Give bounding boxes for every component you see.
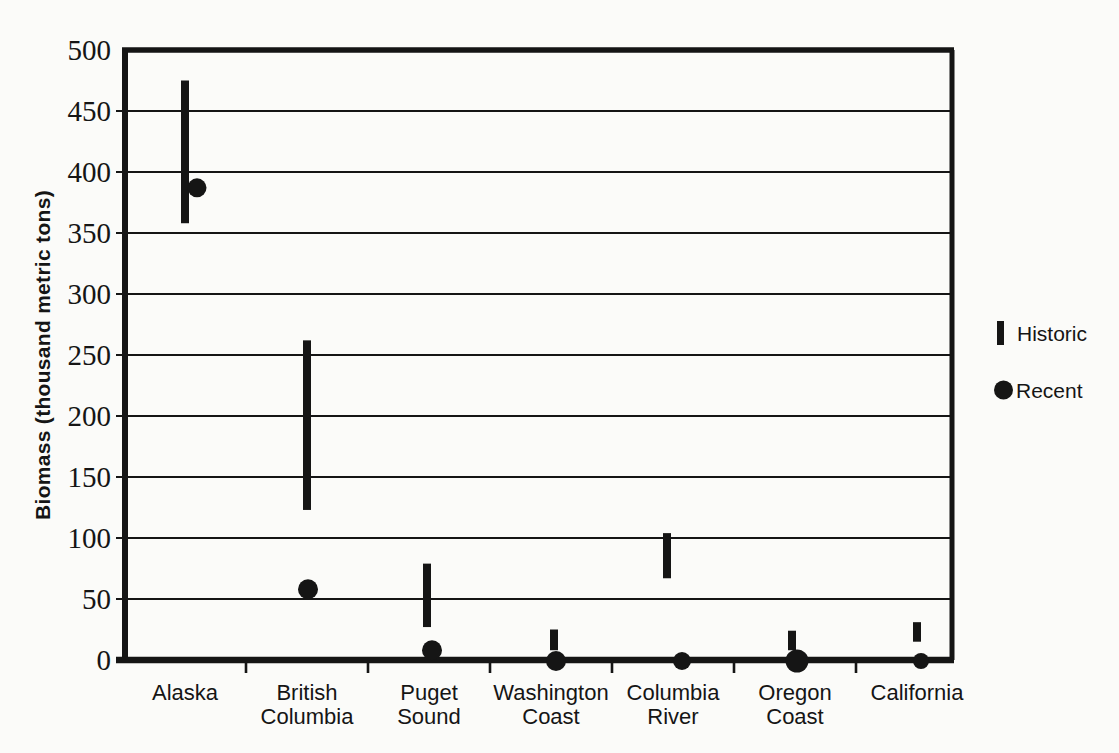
historic-range-bar — [913, 622, 921, 642]
y-tick-label: 250 — [68, 339, 112, 371]
biomass-range-chart: 050100150200250300350400450500AlaskaBrit… — [0, 0, 1119, 753]
x-category-label: Columbia — [261, 704, 355, 729]
historic-range-bar — [663, 533, 671, 578]
x-category-label: California — [871, 680, 965, 705]
legend-historic-label: Historic — [1017, 322, 1087, 345]
y-tick-label: 400 — [68, 156, 112, 188]
legend-recent-label: Recent — [1016, 379, 1083, 402]
y-tick-label: 450 — [68, 95, 112, 127]
y-tick-label: 500 — [68, 34, 112, 66]
recent-dot — [546, 651, 566, 671]
x-category-label: Puget — [400, 680, 458, 705]
historic-range-bar — [550, 630, 558, 651]
x-category-label: Coast — [522, 704, 579, 729]
recent-dot — [298, 579, 318, 599]
x-category-label: Washington — [493, 680, 608, 705]
x-category-label: Sound — [397, 704, 461, 729]
x-category-label: Oregon — [758, 680, 831, 705]
x-category-label: River — [647, 704, 698, 729]
x-category-label: Alaska — [152, 680, 219, 705]
scanned-chart-page: 050100150200250300350400450500AlaskaBrit… — [0, 0, 1119, 753]
y-tick-label: 350 — [68, 217, 112, 249]
y-axis-title: Biomass (thousand metric tons) — [31, 190, 54, 520]
recent-dot — [786, 650, 809, 673]
y-tick-label: 0 — [97, 644, 112, 676]
y-tick-label: 150 — [68, 461, 112, 493]
recent-dot — [188, 178, 207, 197]
historic-range-bar — [423, 564, 431, 627]
recent-dot — [913, 653, 929, 669]
historic-range-bar — [788, 631, 796, 651]
recent-dot — [673, 652, 691, 670]
x-category-label: Columbia — [627, 680, 721, 705]
recent-dot — [422, 640, 442, 660]
x-category-label: Coast — [766, 704, 823, 729]
legend-historic-marker — [997, 321, 1004, 345]
x-category-label: British — [276, 680, 337, 705]
y-tick-label: 50 — [82, 583, 111, 615]
y-tick-label: 300 — [68, 278, 112, 310]
y-tick-label: 200 — [68, 400, 112, 432]
historic-range-bar — [181, 81, 189, 224]
legend-recent-marker — [994, 381, 1013, 400]
historic-range-bar — [303, 340, 311, 510]
y-tick-label: 100 — [68, 522, 112, 554]
